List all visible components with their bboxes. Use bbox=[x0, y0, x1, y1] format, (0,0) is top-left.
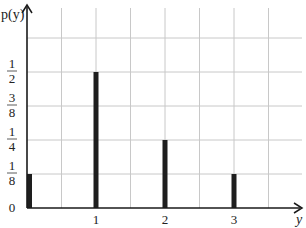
svg-text:1: 1 bbox=[9, 124, 16, 139]
svg-text:1: 1 bbox=[9, 158, 16, 173]
x-tick-label: 2 bbox=[162, 212, 169, 227]
y-axis-title: p(y) bbox=[1, 7, 25, 23]
svg-text:8: 8 bbox=[9, 105, 16, 120]
svg-text:8: 8 bbox=[9, 173, 16, 188]
bar-y-3 bbox=[232, 174, 237, 208]
svg-text:0: 0 bbox=[9, 200, 16, 215]
x-axis-title: y bbox=[294, 212, 303, 227]
svg-text:3: 3 bbox=[9, 90, 16, 105]
y-tick-label: 12 bbox=[7, 56, 17, 86]
svg-text:2: 2 bbox=[9, 71, 16, 86]
svg-text:4: 4 bbox=[9, 139, 16, 154]
y-tick-labels: 018143812 bbox=[7, 56, 17, 215]
bar-y-1 bbox=[94, 72, 99, 208]
x-tick-labels: 123 bbox=[93, 212, 238, 227]
x-tick-label: 3 bbox=[231, 212, 238, 227]
axes bbox=[22, 5, 302, 213]
y-tick-label: 18 bbox=[7, 158, 17, 188]
y-tick-label: 14 bbox=[7, 124, 17, 154]
probability-bar-chart: 123 018143812 p(y) y bbox=[0, 0, 306, 228]
y-tick-label: 38 bbox=[7, 90, 17, 120]
x-tick-label: 1 bbox=[93, 212, 100, 227]
y-tick-label: 0 bbox=[9, 200, 16, 215]
bar-y-2 bbox=[163, 140, 168, 208]
svg-text:1: 1 bbox=[9, 56, 16, 71]
